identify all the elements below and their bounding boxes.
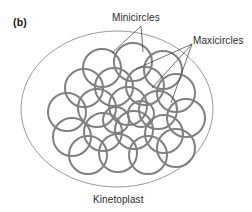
leader-line-minicircles	[141, 26, 143, 52]
kinetoplast-envelope	[21, 31, 213, 187]
leader-line-maxicircles	[152, 44, 192, 88]
kinetoplast-diagram	[0, 0, 252, 212]
leader-line-minicircles	[112, 26, 141, 53]
label-minicircles: Minicircles	[112, 12, 160, 23]
minicircle-network	[48, 43, 205, 174]
figure-panel-b: (b) Minicircles Maxicircles Kinetoplast	[0, 0, 252, 212]
panel-letter: (b)	[13, 16, 27, 28]
label-kinetoplast: Kinetoplast	[93, 194, 144, 205]
label-maxicircles: Maxicircles	[193, 35, 244, 46]
